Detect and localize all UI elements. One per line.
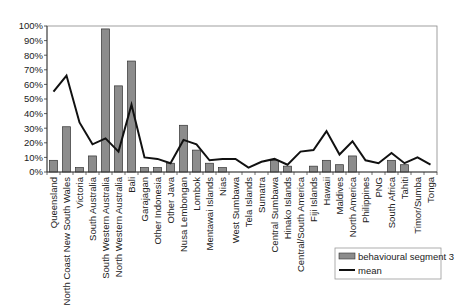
y-tick-label: 80% — [24, 50, 44, 61]
bar — [49, 160, 57, 172]
y-tick-label: 30% — [24, 123, 44, 134]
x-tick-label: Nusa Lembongan — [178, 177, 189, 252]
x-tick-label: North Western Australia — [113, 176, 124, 277]
y-tick-label: 50% — [24, 93, 44, 104]
bar — [166, 163, 174, 172]
bar — [179, 125, 187, 172]
bar — [192, 150, 200, 172]
y-tick-label: 10% — [24, 152, 44, 163]
legend-label-line: mean — [358, 265, 382, 276]
x-tick-label: Hawaii — [321, 177, 332, 206]
bar-series — [49, 29, 408, 172]
bar — [400, 165, 408, 172]
x-tick-label: Lombok — [191, 177, 202, 211]
x-tick-label: Maldives — [334, 177, 345, 215]
bar — [348, 156, 356, 172]
bar — [218, 168, 226, 172]
legend: behavioural segment 3 mean — [335, 248, 454, 279]
x-tick-label: South Western Australia — [100, 176, 111, 278]
x-tick-label: Fiji Islands — [308, 177, 319, 222]
x-tick-label: Sumatra — [256, 176, 267, 213]
x-tick-label: Nias — [217, 177, 228, 196]
legend-label-bar: behavioural segment 3 — [358, 251, 454, 262]
bar — [153, 168, 161, 172]
x-tick-label: PNG — [373, 177, 384, 198]
x-tick-label: North America — [347, 176, 358, 237]
y-axis: 0%10%20%30%40%50%60%70%80%90%100% — [19, 20, 47, 177]
bar — [140, 168, 148, 172]
mean-line — [54, 76, 431, 168]
x-tick-label: Timor/Sumba — [412, 176, 423, 233]
bar — [270, 160, 278, 172]
x-tick-label: Tahiti — [399, 177, 410, 199]
x-tick-label: South Australia — [87, 176, 98, 241]
bar — [62, 127, 70, 172]
x-tick-label: Other Java — [165, 176, 176, 223]
x-tick-label: Central Sumbawa — [269, 176, 280, 252]
bar — [114, 86, 122, 172]
x-tick-label: Philippines — [360, 177, 371, 223]
legend-bar-swatch-icon — [339, 253, 355, 259]
x-tick-label: South Africa — [386, 176, 397, 228]
bar — [283, 166, 291, 172]
bar — [309, 166, 317, 172]
x-axis: QueenslandNorth Coast New South WalesVic… — [47, 172, 437, 305]
x-tick-label: Queensland — [48, 177, 59, 228]
y-tick-label: 90% — [24, 35, 44, 46]
y-tick-label: 40% — [24, 108, 44, 119]
x-tick-label: Garajagan — [139, 177, 150, 221]
x-tick-label: Tela Islands — [243, 177, 254, 227]
x-tick-label: Hinako Islands — [282, 177, 293, 240]
bar — [75, 168, 83, 172]
y-tick-label: 20% — [24, 137, 44, 148]
x-tick-label: West Sumbawa — [230, 176, 241, 243]
x-tick-label: Victoria — [74, 176, 85, 208]
y-tick-label: 0% — [29, 166, 43, 177]
y-tick-label: 60% — [24, 79, 44, 90]
bar — [205, 163, 213, 172]
bar — [387, 160, 395, 172]
x-tick-label: Other Indonesia — [152, 176, 163, 244]
bar — [322, 160, 330, 172]
y-tick-label: 100% — [19, 20, 44, 31]
x-tick-label: Central/South America — [295, 176, 306, 272]
bar — [88, 156, 96, 172]
x-tick-label: Tonga — [425, 176, 436, 203]
x-tick-label: Mentawai Islands — [204, 177, 215, 251]
chart: 0%10%20%30%40%50%60%70%80%90%100% Queens… — [0, 0, 460, 308]
x-tick-label: North Coast New South Wales — [61, 177, 72, 306]
bar — [101, 29, 109, 172]
line-series — [54, 76, 431, 168]
x-tick-label: Bali — [126, 177, 137, 193]
bar — [335, 165, 343, 172]
y-tick-label: 70% — [24, 64, 44, 75]
